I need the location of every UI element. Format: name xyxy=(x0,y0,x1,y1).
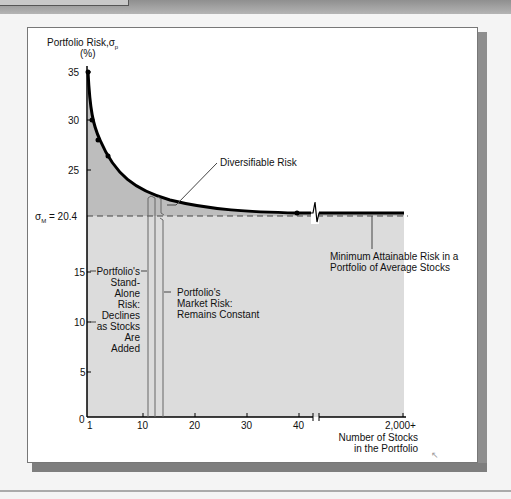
x-axis-title: Number of Stocks xyxy=(330,432,418,443)
y-axis-unit: (%) xyxy=(80,48,96,59)
y-tick: 0 xyxy=(79,414,85,425)
x-tick: 2,000+ xyxy=(385,420,416,431)
y-tick: 15 xyxy=(74,267,85,278)
y-tick: 10 xyxy=(74,317,85,328)
data-point xyxy=(295,211,300,216)
data-point xyxy=(96,138,101,143)
min-risk-label: Portfolio of Average Stocks xyxy=(330,262,450,273)
y-tick: 25 xyxy=(68,165,79,176)
diversifiable-area xyxy=(88,72,404,216)
cursor-icon: ↖ xyxy=(431,450,439,461)
diversifiable-leader xyxy=(167,163,217,205)
y-tick: 35 xyxy=(68,67,79,78)
x-tick: 20 xyxy=(189,420,200,431)
standalone-risk-label: Portfolio'sStand-AloneRisk:Declinesas St… xyxy=(96,266,140,354)
y-tick: 30 xyxy=(68,115,79,126)
x-tick: 10 xyxy=(137,420,148,431)
y-tick: 5 xyxy=(80,367,86,378)
diversifiable-risk-label: Diversifiable Risk xyxy=(220,157,297,168)
x-tick: 1 xyxy=(87,420,93,431)
market-risk-label: Portfolio'sMarket Risk:Remains Constant xyxy=(177,287,259,320)
x-tick: 30 xyxy=(241,420,252,431)
min-risk-label: Minimum Attainable Risk in a xyxy=(330,251,458,262)
x-tick: 40 xyxy=(293,420,304,431)
sigma-m-label: σM = 20.4 xyxy=(35,211,77,227)
x-axis-title: in the Portfolio xyxy=(330,443,418,454)
data-point xyxy=(106,154,111,159)
